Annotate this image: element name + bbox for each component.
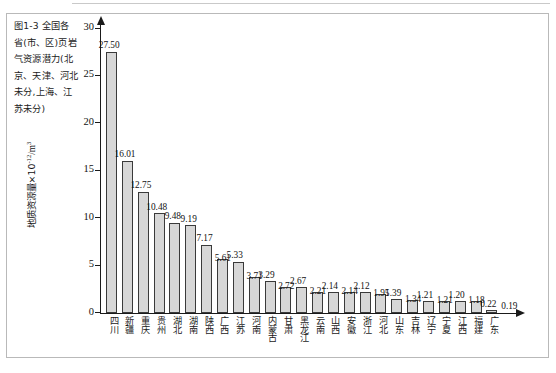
x-category-label[interactable]: 黑龙江: [297, 316, 311, 342]
y-tick-mark: [95, 217, 100, 218]
y-tick-label: 25: [84, 68, 95, 79]
bar-value-label: 9.19: [181, 214, 197, 224]
y-tick-mark: [95, 312, 100, 313]
bar[interactable]: [296, 287, 307, 312]
bar[interactable]: [154, 213, 165, 312]
bar[interactable]: [233, 262, 244, 313]
bar-value-label: 1.21: [417, 290, 433, 300]
bar-value-label: 1.39: [385, 288, 401, 298]
x-category-label[interactable]: 辽宁: [424, 316, 438, 333]
bar[interactable]: [106, 52, 117, 313]
y-tick-label: 0: [89, 306, 94, 317]
bar-chart: 地质资源量×10-12/m3 051015202530 27.50四川16.01…: [0, 0, 556, 373]
x-category-label[interactable]: 河南: [249, 316, 263, 333]
bar-value-label: 3.29: [258, 270, 274, 280]
bar-value-label: 5.33: [227, 250, 243, 260]
bar-value-label: 7.17: [196, 233, 212, 243]
bar[interactable]: [486, 310, 497, 312]
bar[interactable]: [249, 277, 260, 312]
y-tick-label: 20: [84, 116, 95, 127]
x-category-label[interactable]: 湖北: [170, 316, 184, 333]
y-axis-arrow-icon: [97, 16, 105, 25]
bar-value-label: 2.14: [322, 281, 338, 291]
bar-value-label: 0.22: [480, 299, 496, 309]
bar[interactable]: [169, 223, 180, 313]
bar-value-label: 16.01: [115, 149, 136, 159]
x-category-label[interactable]: 云南: [313, 316, 327, 333]
x-category-label[interactable]: 四川: [107, 316, 121, 333]
y-tick-label: 5: [89, 258, 94, 269]
bar[interactable]: [391, 299, 402, 312]
bar[interactable]: [455, 301, 466, 312]
x-axis-line: [100, 313, 518, 314]
x-category-label[interactable]: 广东: [487, 316, 501, 333]
x-category-label[interactable]: 贵州: [154, 316, 168, 333]
y-axis-exponent: -12: [25, 155, 32, 164]
x-category-label[interactable]: 陕西: [202, 316, 216, 333]
x-category-label[interactable]: 湖南: [186, 316, 200, 333]
bar-value-label: 0.19: [501, 301, 517, 311]
x-category-label[interactable]: 山西: [328, 316, 342, 333]
bar[interactable]: [201, 245, 212, 313]
x-category-label[interactable]: 山东: [392, 316, 406, 333]
y-axis-title-text: 地质资源量×10: [26, 164, 37, 229]
bar-value-label: 2.12: [353, 281, 369, 291]
y-tick-mark: [95, 28, 100, 29]
x-category-label[interactable]: 河北: [376, 316, 390, 333]
x-category-label[interactable]: 宁夏: [439, 316, 453, 333]
y-tick-mark: [95, 75, 100, 76]
x-category-label[interactable]: 重庆: [138, 316, 152, 333]
x-category-label[interactable]: 江西: [455, 316, 469, 333]
y-tick-label: 15: [84, 163, 95, 174]
y-axis-unit-exponent: 3: [25, 142, 32, 145]
bar[interactable]: [328, 292, 339, 312]
x-category-label[interactable]: 甘肃: [281, 316, 295, 333]
bar-value-label: 9.48: [165, 211, 181, 221]
y-tick-mark: [95, 122, 100, 123]
bar-value-label: 2.67: [290, 276, 306, 286]
x-category-label[interactable]: 安徽: [344, 316, 358, 333]
y-tick-label: 30: [84, 21, 95, 32]
x-category-label[interactable]: 内蒙古: [265, 316, 279, 342]
x-category-label[interactable]: 福建: [471, 316, 485, 333]
bar-value-label: 27.50: [99, 40, 120, 50]
bar-value-label: 12.75: [130, 180, 151, 190]
bar[interactable]: [185, 225, 196, 312]
y-axis-unit: /m: [27, 145, 37, 155]
y-axis-line: [100, 24, 101, 313]
bar-value-label: 1.20: [449, 290, 465, 300]
x-category-label[interactable]: 江苏: [233, 316, 247, 333]
bar[interactable]: [217, 259, 228, 312]
y-axis-title: 地质资源量×10-12/m3: [24, 110, 38, 260]
x-category-label[interactable]: 新疆: [122, 316, 136, 333]
bar[interactable]: [423, 301, 434, 312]
x-category-label[interactable]: 吉林: [408, 316, 422, 333]
bar[interactable]: [360, 292, 371, 312]
y-tick-mark: [95, 170, 100, 171]
y-tick-mark: [95, 265, 100, 266]
x-category-label[interactable]: 广西: [217, 316, 231, 333]
y-tick-label: 10: [84, 211, 95, 222]
x-category-label[interactable]: 浙江: [360, 316, 374, 333]
bar[interactable]: [265, 281, 276, 312]
